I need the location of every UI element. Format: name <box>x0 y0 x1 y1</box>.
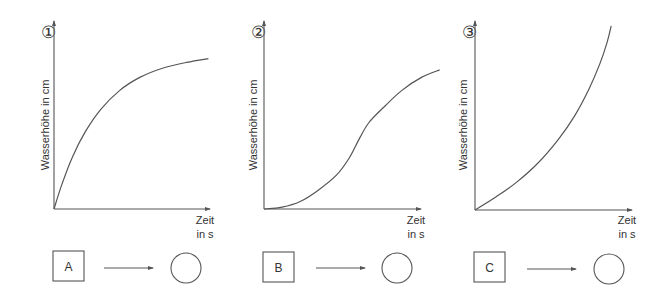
x-axis-label-line2: in s <box>407 228 425 240</box>
x-axis-label-line1: Zeit <box>407 214 425 226</box>
vessel-box-label: B <box>274 261 282 275</box>
diagram-canvas: ① Wasserhöhe in cm Zeit in s A ② Wasserh… <box>0 0 668 299</box>
answer-circle[interactable] <box>171 253 201 283</box>
y-axis-label: Wasserhöhe in cm <box>247 80 259 171</box>
y-axis-label: Wasserhöhe in cm <box>39 80 51 171</box>
vessel-box-label: A <box>64 260 72 274</box>
graph-panel-3: ③ Wasserhöhe in cm Zeit in s C <box>457 21 636 284</box>
x-axis-label-line2: in s <box>196 228 214 240</box>
answer-circle[interactable] <box>382 253 412 283</box>
graph-panel-2: ② Wasserhöhe in cm Zeit in s B <box>247 21 440 283</box>
y-axis-label: Wasserhöhe in cm <box>457 80 469 171</box>
x-axis-label-line1: Zeit <box>196 214 214 226</box>
x-axis-label-line2: in s <box>618 228 636 240</box>
water-level-curve <box>475 26 611 210</box>
water-level-curve <box>264 70 440 209</box>
vessel-box-label: C <box>485 261 494 275</box>
answer-circle[interactable] <box>594 254 624 284</box>
x-axis-label-line1: Zeit <box>618 214 636 226</box>
graph-panel-1: ① Wasserhöhe in cm Zeit in s A <box>39 21 214 283</box>
water-level-curve <box>54 59 208 209</box>
